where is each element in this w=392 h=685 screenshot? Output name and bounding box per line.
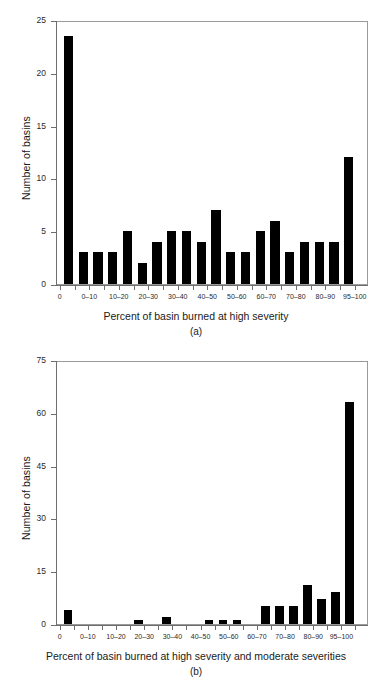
- x-axis-tick: [327, 626, 328, 630]
- y-axis-tick: [51, 21, 56, 22]
- y-axis-tick-label: 15: [24, 567, 46, 576]
- x-axis-tick-label: 0–10: [80, 633, 96, 641]
- y-axis-tick-label: 0: [24, 280, 46, 289]
- x-axis-tick-label: 50–60: [227, 293, 246, 301]
- x-axis-tick-label: 60–70: [247, 633, 266, 641]
- x-axis-tick: [102, 626, 103, 630]
- x-axis-tick-label: 0–10: [81, 293, 97, 301]
- x-axis-tick-label: 30–40: [168, 293, 187, 301]
- x-axis-tick: [341, 626, 342, 630]
- x-axis-tick: [340, 286, 341, 290]
- x-axis-tick: [237, 286, 238, 290]
- histogram-bar: [303, 585, 312, 624]
- x-axis-tick: [243, 626, 244, 630]
- histogram-bar: [152, 242, 161, 284]
- histogram-bar: [226, 252, 235, 284]
- histogram-bar: [275, 606, 284, 624]
- panel-b-x-axis-title: Percent of basin burned at high severity…: [0, 650, 392, 662]
- x-axis-tick-label: 0: [58, 633, 62, 641]
- y-axis-tick-label: 10: [24, 174, 46, 183]
- y-axis-tick-label: 5: [24, 227, 46, 236]
- x-axis-line: [56, 285, 368, 286]
- histogram-bar: [345, 402, 354, 624]
- x-axis-tick: [313, 626, 314, 630]
- x-axis-tick-label: 80–90: [303, 633, 322, 641]
- panel-b-bars: [57, 362, 367, 624]
- y-axis-tick-label: 75: [24, 356, 46, 365]
- x-axis-tick: [158, 626, 159, 630]
- histogram-bar: [182, 231, 191, 284]
- x-axis-tick: [207, 286, 208, 290]
- x-axis-tick: [229, 626, 230, 630]
- x-axis-tick-label: 0: [58, 293, 62, 301]
- y-axis-tick-label: 0: [24, 620, 46, 629]
- histogram-bar: [162, 617, 171, 624]
- histogram-bar: [300, 242, 309, 284]
- x-axis-tick: [116, 626, 117, 630]
- histogram-bar: [138, 263, 147, 284]
- x-axis-tick-label: 30–40: [163, 633, 182, 641]
- x-axis-tick: [355, 626, 356, 630]
- y-axis-tick-label: 15: [24, 122, 46, 131]
- histogram-bar: [329, 242, 338, 284]
- histogram-bar: [79, 252, 88, 284]
- x-axis-tick-label: 20–30: [134, 633, 153, 641]
- x-axis-tick: [104, 286, 105, 290]
- histogram-bar: [197, 242, 206, 284]
- x-axis-tick: [74, 626, 75, 630]
- x-axis-tick: [266, 286, 267, 290]
- x-axis-tick: [60, 286, 61, 290]
- x-axis-tick: [215, 626, 216, 630]
- panel-a-plot-area: [56, 21, 368, 285]
- x-axis-tick: [193, 286, 194, 290]
- x-axis-tick: [60, 626, 61, 630]
- histogram-bar: [64, 36, 73, 284]
- histogram-bar: [289, 606, 298, 624]
- y-axis-tick-label: 45: [24, 462, 46, 471]
- histogram-bar: [134, 620, 143, 624]
- x-axis-tick: [130, 626, 131, 630]
- histogram-bar: [64, 610, 73, 624]
- y-axis-line: [56, 21, 57, 285]
- x-axis-tick: [144, 626, 145, 630]
- x-axis-tick: [148, 286, 149, 290]
- panel-a-caption: (a): [0, 326, 392, 337]
- x-axis-tick-label: 40–50: [191, 633, 210, 641]
- histogram-bar: [331, 592, 340, 624]
- x-axis-tick: [222, 286, 223, 290]
- panel-b-plot-area: [56, 361, 368, 625]
- panel-a-bars: [57, 22, 367, 284]
- x-axis-tick: [186, 626, 187, 630]
- x-axis-tick-label: 70–80: [286, 293, 305, 301]
- y-axis-tick-label: 30: [24, 514, 46, 523]
- x-axis-tick: [178, 286, 179, 290]
- x-axis-tick-label: 20–30: [139, 293, 158, 301]
- x-axis-tick: [75, 286, 76, 290]
- x-axis-tick-label: 50–60: [219, 633, 238, 641]
- y-axis-tick: [51, 179, 56, 180]
- histogram-bar: [233, 620, 242, 624]
- y-axis-tick: [51, 572, 56, 573]
- x-axis-tick-label: 60–70: [257, 293, 276, 301]
- histogram-bar: [261, 606, 270, 624]
- figure-panel-a: Number of basins 051015202500–1010–2020–…: [0, 0, 392, 340]
- histogram-bar: [315, 242, 324, 284]
- histogram-bar: [285, 252, 294, 284]
- panel-b-caption: (b): [0, 666, 392, 677]
- y-axis-tick: [51, 519, 56, 520]
- y-axis-tick: [51, 414, 56, 415]
- histogram-bar: [256, 231, 265, 284]
- y-axis-tick-label: 25: [24, 16, 46, 25]
- x-axis-tick-label: 70–80: [275, 633, 294, 641]
- histogram-bar: [344, 157, 353, 284]
- y-axis-line: [56, 361, 57, 625]
- x-axis-tick: [285, 626, 286, 630]
- histogram-bar: [241, 252, 250, 284]
- histogram-bar: [123, 231, 132, 284]
- histogram-bar: [93, 252, 102, 284]
- x-axis-tick: [88, 626, 89, 630]
- x-axis-tick-label: 10–20: [106, 633, 125, 641]
- y-axis-tick: [51, 74, 56, 75]
- x-axis-tick-label: 40–50: [198, 293, 217, 301]
- y-axis-tick: [51, 232, 56, 233]
